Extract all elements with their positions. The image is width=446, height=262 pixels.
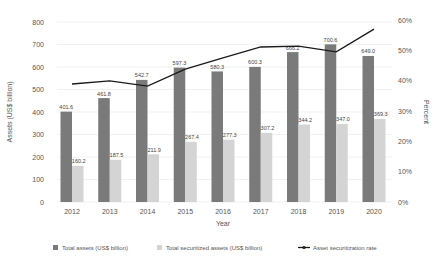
- right-axis-ticks: 0%10%20%30%40%50%60%: [398, 17, 412, 206]
- legend-label: Asset securitization rate: [313, 245, 377, 251]
- x-axis-ticks: 201220132014201520162017201820192020: [64, 208, 382, 215]
- y-tick-label: 600: [32, 64, 44, 71]
- y2-tick-label: 0%: [398, 199, 408, 206]
- bar-total-assets: [287, 52, 299, 202]
- bar-total-assets: [98, 98, 110, 202]
- left-axis-label: Assets (US$ billion): [6, 81, 14, 142]
- bar-securitized-assets: [223, 140, 235, 202]
- y-tick-label: 800: [32, 19, 44, 26]
- bar-value-label: 267.4: [185, 134, 199, 140]
- x-tick-label: 2019: [328, 208, 344, 215]
- y-tick-label: 400: [32, 109, 44, 116]
- bar-securitized-assets: [299, 125, 311, 202]
- y2-tick-label: 20%: [398, 138, 412, 145]
- bar-value-label: 160.2: [72, 158, 86, 164]
- bar-value-label: 649.0: [361, 48, 375, 54]
- bar-value-label: 211.9: [148, 147, 161, 153]
- x-tick-label: 2020: [366, 208, 382, 215]
- bar-securitized-assets: [72, 166, 84, 202]
- combo-bar-line-chart: 0100200300400500600700800 0%10%20%30%40%…: [0, 0, 446, 262]
- x-tick-label: 2013: [102, 208, 118, 215]
- x-tick-label: 2012: [64, 208, 80, 215]
- y-tick-label: 100: [32, 176, 44, 183]
- bar-value-label: 461.8: [97, 91, 111, 97]
- x-tick-label: 2014: [140, 208, 156, 215]
- bar-value-label: 600.3: [248, 59, 262, 65]
- legend-label: Total assets (US$ billion): [62, 245, 128, 251]
- bar-total-assets: [212, 71, 224, 202]
- bar-securitized-assets: [261, 133, 273, 202]
- legend-marker-icon: [302, 246, 305, 249]
- bar-total-assets: [249, 67, 261, 202]
- x-tick-label: 2017: [253, 208, 269, 215]
- y-tick-label: 0: [40, 199, 44, 206]
- y2-tick-label: 60%: [398, 17, 412, 24]
- y-tick-label: 300: [32, 131, 44, 138]
- bar-value-label: 580.3: [210, 64, 224, 70]
- left-axis-ticks: 0100200300400500600700800: [32, 19, 44, 206]
- bar-total-assets: [325, 44, 337, 202]
- bar-value-label: 307.2: [261, 125, 275, 131]
- bar-total-assets: [136, 80, 148, 202]
- y-tick-label: 700: [32, 41, 44, 48]
- bar-value-label: 597.3: [173, 60, 187, 66]
- bar-value-label: 401.6: [59, 104, 73, 110]
- bar-value-label: 347.0: [336, 116, 350, 122]
- bar-value-label: 369.3: [374, 111, 388, 117]
- chart-canvas: 0100200300400500600700800 0%10%20%30%40%…: [0, 0, 446, 262]
- x-axis-label: Year: [216, 220, 231, 227]
- y2-tick-label: 40%: [398, 77, 412, 84]
- right-axis-label: Percent: [423, 100, 430, 124]
- bar-value-label: 542.7: [135, 72, 149, 78]
- bar-total-assets: [61, 112, 73, 202]
- bar-securitized-assets: [374, 119, 386, 202]
- legend-swatch-securitized-assets: [157, 245, 162, 250]
- x-tick-label: 2016: [215, 208, 231, 215]
- bar-securitized-assets: [148, 154, 160, 202]
- bar-total-assets: [174, 68, 186, 202]
- legend-label: Total securitized assets (US$ billion): [166, 245, 262, 251]
- x-tick-label: 2015: [177, 208, 193, 215]
- bar-value-label: 344.2: [298, 117, 312, 123]
- legend-swatch-total-assets: [53, 245, 58, 250]
- bar-value-label: 700.6: [324, 37, 338, 43]
- bar-total-assets: [363, 56, 375, 202]
- bar-securitized-assets: [110, 160, 122, 202]
- bar-securitized-assets: [336, 124, 348, 202]
- y2-tick-label: 50%: [398, 47, 412, 54]
- y2-tick-label: 30%: [398, 108, 412, 115]
- x-tick-label: 2018: [291, 208, 307, 215]
- y-tick-label: 500: [32, 86, 44, 93]
- bar-value-label: 277.3: [223, 132, 237, 138]
- legend: Total assets (US$ billion)Total securiti…: [53, 245, 377, 251]
- y2-tick-label: 10%: [398, 168, 412, 175]
- bar-securitized-assets: [185, 142, 197, 202]
- bar-value-label: 187.5: [110, 152, 124, 158]
- y-tick-label: 200: [32, 154, 44, 161]
